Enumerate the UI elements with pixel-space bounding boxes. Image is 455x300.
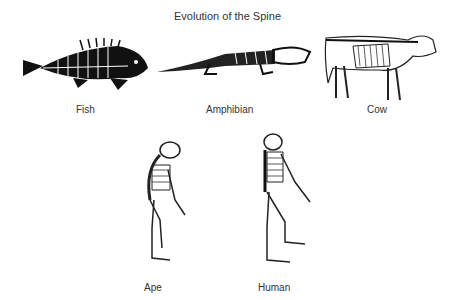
ape-label: Ape [144,282,162,293]
cow-label: Cow [367,104,387,115]
cow-skeleton-illustration [318,28,438,103]
ape-skeleton-illustration [130,140,190,270]
amphibian-skeleton-illustration [155,42,315,77]
human-skeleton-illustration [255,132,325,272]
fish-skeleton-illustration [18,38,153,93]
diagram-title: Evolution of the Spine [0,10,455,22]
fish-label: Fish [76,104,95,115]
human-label: Human [258,282,290,293]
amphibian-label: Amphibian [206,104,253,115]
